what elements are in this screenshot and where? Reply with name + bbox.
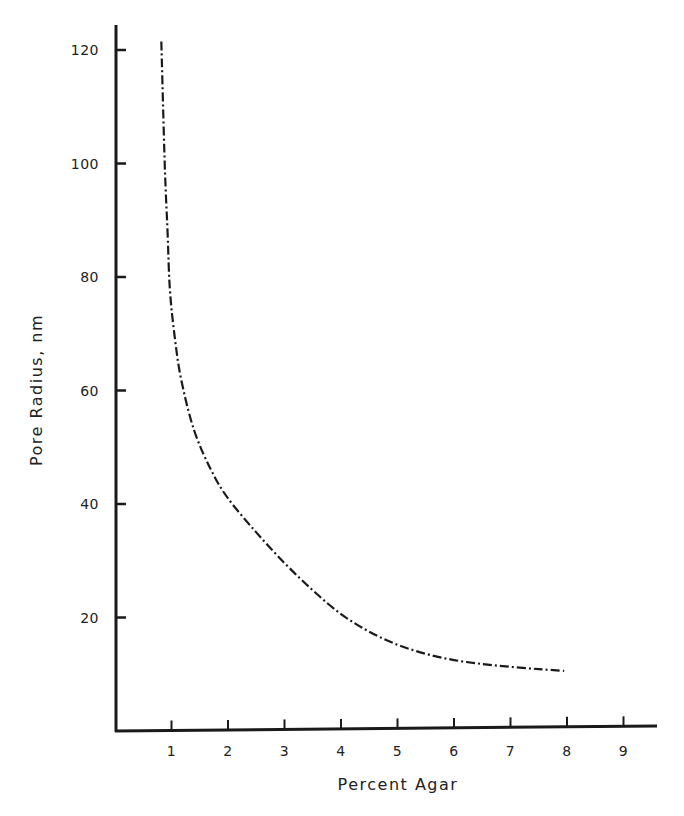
x-axis xyxy=(115,726,657,731)
y-axis-title: Pore Radius, nm xyxy=(27,314,46,466)
y-tick-label: 60 xyxy=(80,383,99,399)
y-tick-label: 120 xyxy=(71,42,99,58)
x-tick-label: 9 xyxy=(619,743,628,759)
x-ticks: 123456789 xyxy=(167,716,628,759)
y-ticks: 20406080100120 xyxy=(71,42,126,626)
data-line xyxy=(161,41,564,670)
x-tick-label: 4 xyxy=(336,743,345,759)
y-tick-label: 100 xyxy=(71,156,99,172)
x-tick-label: 8 xyxy=(562,743,571,759)
x-tick-label: 6 xyxy=(449,743,458,759)
x-tick-label: 1 xyxy=(167,743,176,759)
x-tick-label: 2 xyxy=(223,743,232,759)
y-tick-label: 80 xyxy=(80,269,99,285)
chart: 20406080100120 123456789 Percent Agar Po… xyxy=(0,0,684,816)
x-tick-label: 5 xyxy=(393,743,402,759)
x-tick-label: 7 xyxy=(506,743,515,759)
y-tick-label: 40 xyxy=(80,496,99,512)
y-tick-label: 20 xyxy=(80,610,99,626)
x-tick-label: 3 xyxy=(280,743,289,759)
x-axis-title: Percent Agar xyxy=(338,775,459,794)
